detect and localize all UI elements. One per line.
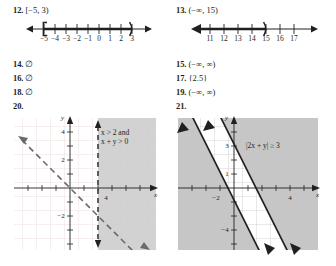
answer-item-12: 12. [−5, 3) [13, 6, 49, 15]
graph-20-annotation-line2: x + y > 0 [101, 137, 129, 146]
tick-label: −3 [62, 34, 70, 43]
answer-item-21: 21. [176, 102, 186, 111]
tick-label: 14 [248, 34, 256, 43]
answer-number-17: 17. [176, 73, 186, 83]
answer-text-18: ∅ [25, 87, 33, 97]
answer-item-16: 16. ∅ [13, 74, 33, 83]
tick-label: 12 [220, 34, 228, 43]
graph-20-x-axis-label: x [154, 191, 157, 199]
graph-21-y-tick-neg4: −4 [221, 226, 228, 234]
answer-item-18: 18. ∅ [13, 88, 33, 97]
tick-label: 0 [97, 34, 101, 43]
answer-item-14: 14. ∅ [13, 60, 33, 69]
answer-number-20: 20. [13, 101, 23, 111]
tick-label: 1 [108, 34, 112, 43]
graph-21-x-tick-neg2: −2 [212, 194, 219, 202]
graph-20-x-tick-4: 4 [104, 194, 108, 202]
answer-item-20: 20. [13, 102, 23, 111]
tick-label: −4 [51, 34, 59, 43]
answer-number-21: 21. [176, 101, 186, 111]
graph-21-annotation-line1: |2x + y| ≥ 3 [246, 141, 280, 150]
graph-21-annotation: |2x + y| ≥ 3 [246, 141, 280, 150]
graph-21-x-axis-label: x [316, 191, 319, 199]
graph-20-y-tick-2: 2 [61, 156, 65, 164]
tick-label: −5 [40, 34, 48, 43]
answer-number-14: 14. [13, 59, 23, 69]
answer-number-16: 16. [13, 73, 23, 83]
numberline-13: 11 12 13 14 15 16 17 [190, 20, 320, 42]
graph-20-annotation-line1: x > 2 and [101, 128, 129, 137]
answer-text-13: (−∞, 15) [188, 5, 217, 15]
graph-21-y-tick-1: 1 [225, 170, 229, 178]
graph-21-x-tick-4: 4 [288, 194, 292, 202]
answer-text-14: ∅ [25, 59, 33, 69]
tick-label: 16 [276, 34, 284, 43]
answer-number-15: 15. [176, 59, 186, 69]
graph-20-annotation: x > 2 and x + y > 0 [101, 128, 129, 147]
graph-20-y-tick-4: 4 [61, 128, 65, 136]
answer-text-15: (−∞, ∞) [188, 59, 215, 69]
graph-20: 4 4 2 −2 x y x > 2 and x + y > 0 [8, 112, 164, 262]
answer-text-12: [−5, 3) [25, 5, 48, 15]
tick-label: 17 [290, 34, 298, 43]
answer-item-19: 19. (−∞, ∞) [176, 88, 215, 97]
answer-text-17: {2.5} [188, 73, 207, 83]
answer-number-18: 18. [13, 87, 23, 97]
tick-label: −1 [84, 34, 92, 43]
graph-21: −2 4 3 1 −4 x y |2x + y| ≥ 3 [172, 112, 330, 262]
graph-21-y-axis-label: y [225, 114, 228, 122]
answer-number-13: 13. [176, 5, 186, 15]
graph-20-y-axis-label: y [61, 114, 64, 122]
answer-item-15: 15. (−∞, ∞) [176, 60, 215, 69]
answer-number-19: 19. [176, 87, 186, 97]
answer-item-17: 17. {2.5} [176, 74, 207, 83]
answer-key-page: 12. [−5, 3) −5 [0, 0, 336, 266]
tick-label: 13 [234, 34, 242, 43]
tick-label: 3 [130, 34, 134, 43]
tick-label: 11 [206, 34, 213, 43]
numberline-12: −5 −4 −3 −2 −1 0 1 2 3 [24, 20, 154, 42]
answer-text-19: (−∞, ∞) [188, 87, 215, 97]
tick-label: −2 [73, 34, 81, 43]
tick-label: 15 [262, 34, 270, 43]
graph-21-y-tick-3: 3 [225, 142, 229, 150]
graph-20-y-tick-neg2: −2 [57, 212, 64, 220]
answer-number-12: 12. [13, 5, 23, 15]
tick-label: 2 [119, 34, 123, 43]
answer-item-13: 13. (−∞, 15) [176, 6, 218, 15]
answer-text-16: ∅ [25, 73, 33, 83]
